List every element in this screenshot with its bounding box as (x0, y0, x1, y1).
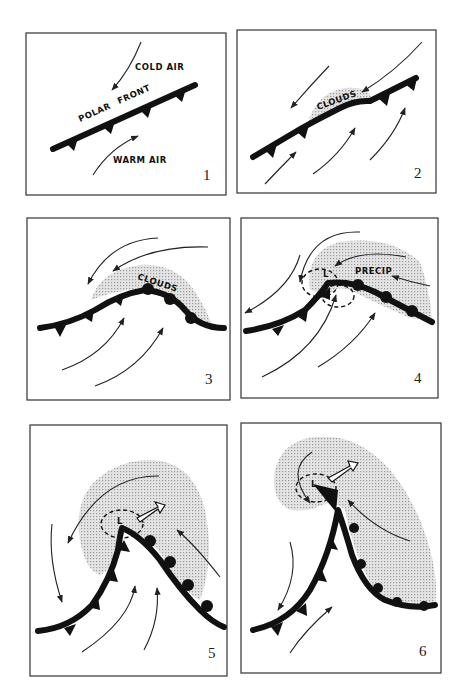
precip-label: PRECIP (355, 266, 392, 276)
panel-2: CLOUDS 2 (237, 30, 436, 193)
wind-arrow (265, 152, 296, 184)
wind-arrow (245, 255, 300, 313)
wind-arrow (144, 588, 157, 650)
panel-6: L 6 (241, 423, 441, 673)
wind-arrow (82, 586, 135, 652)
low-label: L (117, 516, 123, 526)
cold-air-label: COLD AIR (135, 62, 184, 72)
front-label: FRONT (116, 82, 152, 105)
wind-arrow (51, 524, 62, 602)
panel-4: L PRECIP 4 (241, 218, 438, 398)
panel-1: COLD AIR POLAR FRONT WARM AIR 1 (26, 33, 226, 195)
wind-arrow (318, 313, 375, 367)
cloud-area (79, 460, 209, 600)
warm-air-label: WARM AIR (113, 155, 167, 165)
panel-number: 3 (205, 371, 213, 387)
panel-number: 4 (414, 370, 422, 386)
panel-number: 6 (419, 643, 427, 659)
panel-3: CLOUDS 3 (27, 218, 230, 400)
polar-label: POLAR (77, 101, 113, 124)
wind-arrow (370, 108, 405, 160)
wind-arrow (262, 295, 336, 377)
wind-arrow (290, 607, 332, 653)
panel-number: 1 (203, 167, 211, 183)
low-label: L (311, 479, 317, 489)
front-line (253, 78, 416, 157)
panel-number: 5 (208, 645, 216, 661)
wind-arrow (278, 542, 293, 610)
low-label: L (323, 269, 329, 279)
wind-arrow (62, 318, 124, 370)
panel-5: L 5 (30, 425, 227, 676)
panel-number: 2 (414, 165, 422, 181)
wind-arrow (95, 328, 163, 386)
cyclone-diagram: COLD AIR POLAR FRONT WARM AIR 1 CLOUDS 2 (0, 0, 464, 686)
wind-arrow (313, 128, 355, 174)
